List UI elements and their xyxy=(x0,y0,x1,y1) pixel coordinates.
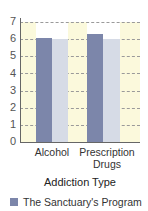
bar-alcohol-comparison xyxy=(52,39,68,142)
x-category-label: Alcohol xyxy=(30,147,74,158)
y-tick-label: 4 xyxy=(4,68,16,79)
bar-prescription-sanctuary xyxy=(87,34,103,142)
x-axis-title: Addiction Type xyxy=(20,176,140,188)
y-axis xyxy=(20,18,21,143)
x-category-label: Prescription xyxy=(74,147,140,158)
y-tick-label: 1 xyxy=(4,119,16,130)
background-stripe xyxy=(68,22,87,142)
background-stripe xyxy=(120,22,140,142)
x-axis xyxy=(20,142,140,143)
y-tick-label: 2 xyxy=(4,102,16,113)
y-tick-label: 7 xyxy=(4,16,16,27)
x-category-label: Drugs xyxy=(74,159,140,170)
legend-label: The Sanctuary's Program xyxy=(23,196,142,208)
legend: The Sanctuary's Program xyxy=(10,196,142,208)
legend-swatch xyxy=(10,198,18,206)
bar-prescription-comparison xyxy=(103,39,120,142)
y-tick-label: 6 xyxy=(4,33,16,44)
plot-area xyxy=(20,22,140,142)
y-tick-label: 3 xyxy=(4,85,16,96)
y-tick-label: 0 xyxy=(4,136,16,147)
y-tick-label: 5 xyxy=(4,50,16,61)
background-stripe xyxy=(21,22,36,142)
bar-alcohol-sanctuary xyxy=(36,38,52,142)
gridline xyxy=(20,22,140,23)
